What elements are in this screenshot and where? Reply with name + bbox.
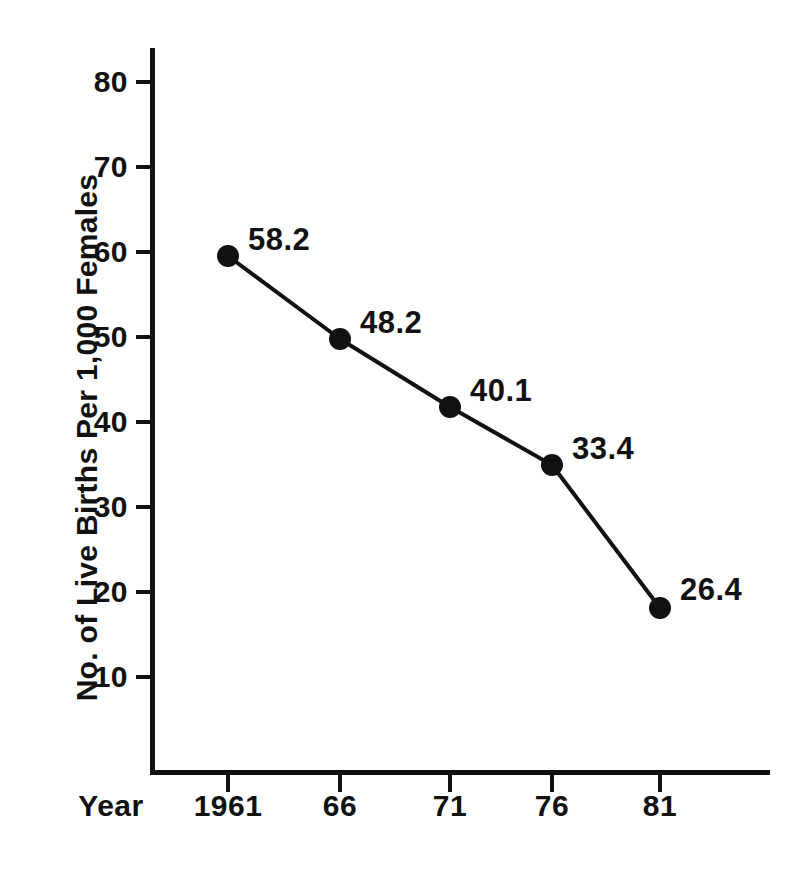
data-point-marker <box>649 597 671 619</box>
data-point-marker <box>439 396 461 418</box>
data-series-line <box>0 0 808 875</box>
data-point-label: 33.4 <box>572 431 634 467</box>
data-point-label: 40.1 <box>470 373 532 409</box>
data-point-marker <box>541 454 563 476</box>
data-point-label: 26.4 <box>680 572 742 608</box>
line-chart-figure: 8070605040302010 196166717681 No. of Liv… <box>0 0 808 875</box>
data-point-label: 48.2 <box>360 305 422 341</box>
data-point-marker <box>329 328 351 350</box>
data-point-label: 58.2 <box>248 222 310 258</box>
data-point-marker <box>217 245 239 267</box>
